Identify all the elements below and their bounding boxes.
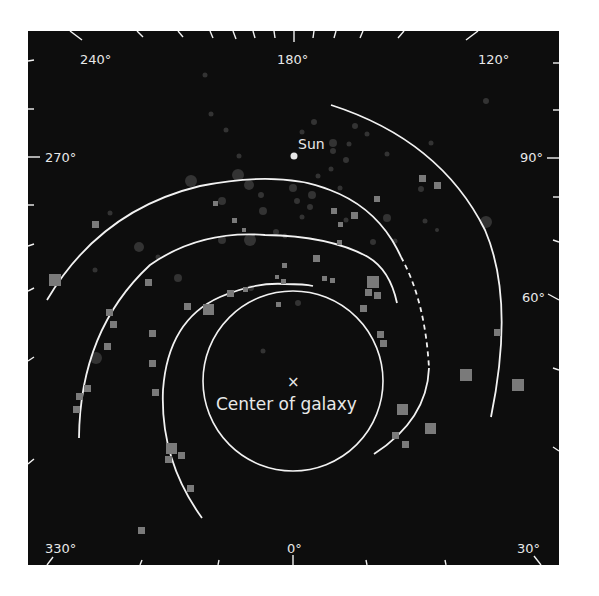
- degree-label-30: 30°: [517, 541, 540, 556]
- degree-label-90: 90°: [520, 150, 543, 165]
- square-markers: [49, 175, 524, 534]
- degree-label-240: 240°: [80, 52, 111, 67]
- degree-label-0: 0°: [287, 541, 302, 556]
- center-x-mark: ×: [287, 373, 300, 391]
- degree-label-120: 120°: [478, 52, 509, 67]
- arm-outer-right: [331, 105, 502, 417]
- sun-label: Sun: [298, 136, 325, 152]
- galaxy-diagram: Sun × Center of galaxy 240° 180° 120° 27…: [0, 0, 599, 596]
- galaxy-map: Sun × Center of galaxy 240° 180° 120° 27…: [0, 0, 599, 596]
- degree-label-180: 180°: [277, 52, 308, 67]
- degree-label-60: 60°: [522, 290, 545, 305]
- degree-label-270: 270°: [45, 150, 76, 165]
- spiral-arms: [47, 105, 502, 518]
- degree-label-330: 330°: [45, 541, 76, 556]
- circle-markers: [90, 73, 492, 365]
- degree-labels: 240° 180° 120° 270° 90° 60° 330° 0° 30°: [45, 52, 545, 556]
- center-label: Center of galaxy: [216, 394, 357, 414]
- sun-marker: [291, 153, 298, 160]
- arm-sagittarius-dashed: [401, 257, 429, 368]
- tick-marks: [28, 31, 559, 565]
